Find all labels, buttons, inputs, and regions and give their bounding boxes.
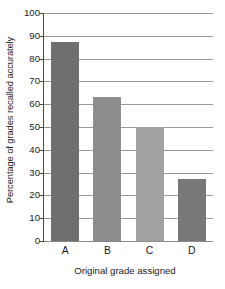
x-axis-title: Original grade assigned [30, 265, 220, 276]
y-axis-tick-label: 80 [18, 54, 40, 64]
y-axis-tick-label: 20 [18, 190, 40, 200]
x-axis-tick-labels: ABCD [44, 244, 213, 260]
bar-a [51, 42, 79, 242]
y-axis-tick-label: 60 [18, 99, 40, 109]
x-axis-tick-label-a: A [44, 244, 86, 257]
plot-area [44, 13, 213, 241]
x-axis-tick-label-b: B [86, 244, 128, 257]
bar-chart-figure: Percentage of grades recalled accurately… [0, 0, 225, 289]
y-axis-tick-label: 100 [18, 8, 40, 18]
y-axis-tick-label: 10 [18, 213, 40, 223]
y-axis-tick-label: 0 [18, 236, 40, 246]
y-axis-tick-labels: 0102030405060708090100 [18, 13, 40, 241]
bar-d [178, 179, 206, 241]
y-axis-tick-label: 70 [18, 76, 40, 86]
bar-b [93, 97, 121, 241]
y-axis-tick-label: 30 [18, 168, 40, 178]
y-axis-tick-label: 40 [18, 145, 40, 155]
x-axis-tick-label-c: C [129, 244, 171, 257]
bar-series [44, 13, 213, 241]
x-axis-tick-label-d: D [171, 244, 213, 257]
y-axis-tick-label: 50 [18, 122, 40, 132]
y-axis-tick-label: 90 [18, 31, 40, 41]
y-axis-title: Percentage of grades recalled accurately [0, 0, 18, 240]
bar-c [136, 127, 164, 241]
gridline [44, 241, 213, 242]
